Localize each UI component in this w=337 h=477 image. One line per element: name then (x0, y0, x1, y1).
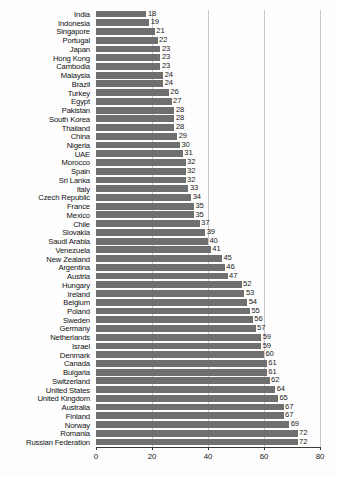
bar (96, 159, 186, 166)
y-axis-label: Austria (0, 272, 93, 281)
bar (96, 369, 267, 376)
bar-row: 59 (96, 342, 320, 351)
bar-row: 33 (96, 185, 320, 194)
bar (96, 439, 298, 446)
bar-row: 24 (96, 80, 320, 89)
bar-row: 26 (96, 89, 320, 98)
bar (96, 281, 242, 288)
bar (96, 395, 278, 402)
bar (96, 63, 160, 70)
bar-row: 24 (96, 71, 320, 80)
bar (96, 107, 174, 114)
y-axis-label: Morocco (0, 158, 93, 167)
y-axis-label: Mexico (0, 211, 93, 220)
x-tick-40 (208, 447, 209, 450)
bar (96, 351, 264, 358)
gridline-80 (320, 10, 321, 447)
y-axis-label: Malaysia (0, 71, 93, 80)
bar (96, 220, 200, 227)
x-tick-20 (152, 447, 153, 450)
y-axis-label: South Korea (0, 115, 93, 124)
bar (96, 229, 205, 236)
bar-row: 22 (96, 36, 320, 45)
x-tick-label-20: 20 (148, 452, 157, 461)
bar-row: 56 (96, 316, 320, 325)
bar-row: 45 (96, 255, 320, 264)
bar-value-label: 69 (291, 419, 299, 428)
y-axis-label: Japan (0, 45, 93, 54)
bar (96, 421, 289, 428)
bar (96, 255, 222, 262)
y-axis-label: Thailand (0, 124, 93, 133)
y-axis-label: Poland (0, 307, 93, 316)
y-axis-label: Portugal (0, 36, 93, 45)
bar (96, 185, 188, 192)
bar (96, 203, 194, 210)
y-axis-label: Argentina (0, 263, 93, 272)
y-axis-label: China (0, 132, 93, 141)
bar (96, 290, 244, 297)
bar (96, 72, 163, 79)
bar-row: 55 (96, 307, 320, 316)
y-axis-label: Switzerland (0, 377, 93, 386)
y-axis-label: Belgium (0, 298, 93, 307)
y-axis-label: New Zealand (0, 255, 93, 264)
y-axis-label: United States (0, 386, 93, 395)
y-axis-label: Indonesia (0, 19, 93, 28)
y-axis-label: Hungary (0, 281, 93, 290)
bar (96, 325, 256, 332)
bar (96, 150, 183, 157)
bar-row: 32 (96, 167, 320, 176)
y-axis-label: Egypt (0, 97, 93, 106)
y-axis-label: Netherlands (0, 333, 93, 342)
bar (96, 46, 160, 53)
y-axis-label: Pakistan (0, 106, 93, 115)
bar-row: 41 (96, 246, 320, 255)
bar-row: 59 (96, 333, 320, 342)
y-axis-label: Australia (0, 403, 93, 412)
y-axis-label: Nigeria (0, 141, 93, 150)
bar (96, 308, 250, 315)
x-tick-80 (320, 447, 321, 450)
y-axis-label: Cambodia (0, 62, 93, 71)
y-axis-label: Israel (0, 342, 93, 351)
y-axis-label: Denmark (0, 351, 93, 360)
bar (96, 194, 191, 201)
y-axis-label: Finland (0, 412, 93, 421)
bar (96, 412, 284, 419)
bar (96, 11, 146, 18)
y-axis-label: Brazil (0, 80, 93, 89)
bar (96, 54, 160, 61)
bar (96, 28, 155, 35)
bar-row: 60 (96, 351, 320, 360)
bar-row: 34 (96, 193, 320, 202)
y-axis-label: Chile (0, 220, 93, 229)
bar (96, 37, 158, 44)
bar (96, 299, 247, 306)
bar-row: 23 (96, 54, 320, 63)
bar (96, 238, 208, 245)
x-tick-0 (96, 447, 97, 450)
bar (96, 264, 225, 271)
x-tick-label-40: 40 (204, 452, 213, 461)
bar-row: 72 (96, 438, 320, 447)
bar-row: 31 (96, 150, 320, 159)
bar-row: 40 (96, 237, 320, 246)
y-axis-label: Turkey (0, 89, 93, 98)
bar-row: 62 (96, 377, 320, 386)
bar-row: 52 (96, 281, 320, 290)
bar (96, 360, 267, 367)
y-axis-label: Bulgaria (0, 368, 93, 377)
bar-row: 69 (96, 421, 320, 430)
y-axis-label: United Kingdom (0, 394, 93, 403)
bar (96, 334, 261, 341)
y-axis-label: Russian Federation (0, 438, 93, 447)
bar (96, 377, 270, 384)
bar-row: 23 (96, 62, 320, 71)
y-axis-label: Saudi Arabia (0, 237, 93, 246)
bar (96, 316, 253, 323)
bar (96, 168, 186, 175)
bar-row: 30 (96, 141, 320, 150)
bar (96, 246, 211, 253)
bar-row: 61 (96, 359, 320, 368)
